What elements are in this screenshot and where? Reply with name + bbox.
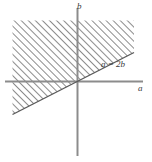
inequality-graph-figure: b a a = 2b	[0, 0, 152, 162]
boundary-line-label: a = 2b	[101, 60, 125, 69]
horizontal-axis-label: a	[138, 84, 143, 93]
coordinate-plane-svg	[0, 0, 152, 162]
vertical-axis-label: b	[77, 2, 82, 11]
